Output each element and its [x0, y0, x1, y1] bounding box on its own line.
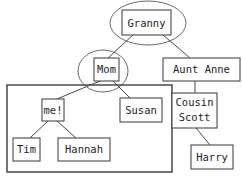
edge-me-tim — [30, 121, 48, 138]
node-cousin-scott[interactable]: Cousin Scott — [172, 93, 217, 128]
node-mom[interactable]: Mom — [94, 58, 119, 81]
node-aunt-anne-label: Aunt Anne — [173, 63, 230, 75]
edge-granny-aunt — [163, 35, 190, 58]
node-me-label: me! — [44, 104, 63, 116]
node-tim-label: Tim — [17, 143, 36, 155]
node-hannah[interactable]: Hannah — [58, 138, 110, 161]
node-susan[interactable]: Susan — [120, 98, 162, 122]
edge-me-hannah — [57, 121, 76, 138]
node-granny-label: Granny — [128, 17, 166, 29]
node-tim[interactable]: Tim — [13, 138, 40, 161]
family-tree-canvas: Granny Mom Aunt Anne me! Susan Cousin — [0, 0, 242, 178]
nodes-layer: Granny Mom Aunt Anne me! Susan Cousin — [13, 10, 240, 169]
node-mom-label: Mom — [97, 63, 116, 75]
node-cousin-scott-label-line1: Cousin — [176, 96, 214, 108]
node-me[interactable]: me! — [42, 99, 64, 121]
edge-cousin-harry — [196, 128, 210, 145]
node-susan-label: Susan — [125, 104, 157, 116]
node-granny[interactable]: Granny — [122, 10, 171, 35]
node-aunt-anne[interactable]: Aunt Anne — [163, 58, 240, 81]
node-hannah-label: Hannah — [65, 143, 103, 155]
node-harry-label: Harry — [196, 151, 228, 163]
node-harry[interactable]: Harry — [191, 145, 233, 169]
family-tree-diagram: Granny Mom Aunt Anne me! Susan Cousin — [0, 0, 242, 178]
node-cousin-scott-label-line2: Scott — [179, 111, 211, 123]
